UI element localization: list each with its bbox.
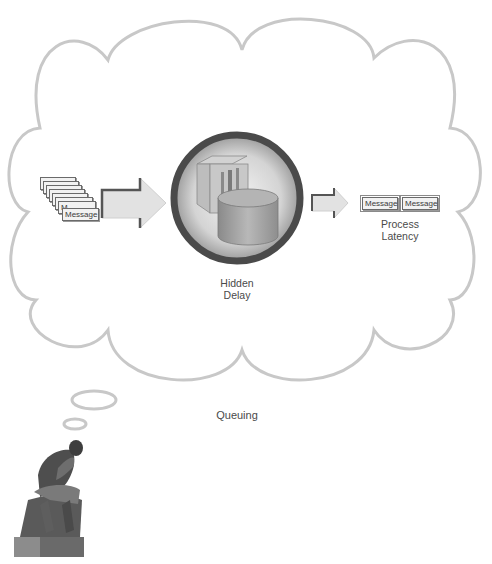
thinker-statue-icon [0, 0, 492, 564]
